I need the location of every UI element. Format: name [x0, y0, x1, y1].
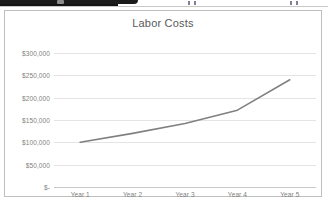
toolbar-marker-icon — [296, 1, 298, 5]
y-tick-label: $300,000 — [22, 50, 50, 57]
y-tick-label: $- — [44, 184, 50, 191]
x-axis: Year 1Year 2Year 3Year 4Year 5 — [54, 191, 316, 201]
chrome-divider — [0, 6, 328, 7]
x-tick-label: Year 4 — [211, 191, 263, 201]
plot-area: $300,000$250,000$200,000$150,000$100,000… — [5, 11, 323, 198]
ribbon-dark-bar-rounded — [0, 0, 138, 4]
chart-container[interactable]: Labor Costs $300,000$250,000$200,000$150… — [4, 10, 322, 197]
y-tick-label: $200,000 — [22, 94, 50, 101]
x-tick-label: Year 3 — [159, 191, 211, 201]
y-tick-label: $250,000 — [22, 72, 50, 79]
toolbar-marker-icon — [290, 1, 292, 5]
y-tick-label: $100,000 — [22, 139, 50, 146]
ribbon-icon — [57, 0, 64, 4]
x-tick-label: Year 2 — [106, 191, 158, 201]
toolbar-marker-icon — [194, 1, 196, 5]
y-tick-label: $50,000 — [26, 161, 50, 168]
toolbar-marker-icon — [188, 1, 190, 5]
app-chrome-sliver — [0, 0, 328, 8]
y-tick-label: $150,000 — [22, 117, 50, 124]
y-axis: $300,000$250,000$200,000$150,000$100,000… — [5, 11, 53, 198]
x-tick-label: Year 5 — [264, 191, 316, 201]
series-line-labor-costs — [54, 11, 316, 198]
x-tick-label: Year 1 — [54, 191, 106, 201]
